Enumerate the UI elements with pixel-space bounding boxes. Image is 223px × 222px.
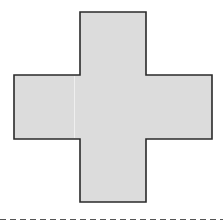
cross-shape	[14, 12, 212, 202]
cross-diagram	[0, 0, 223, 222]
